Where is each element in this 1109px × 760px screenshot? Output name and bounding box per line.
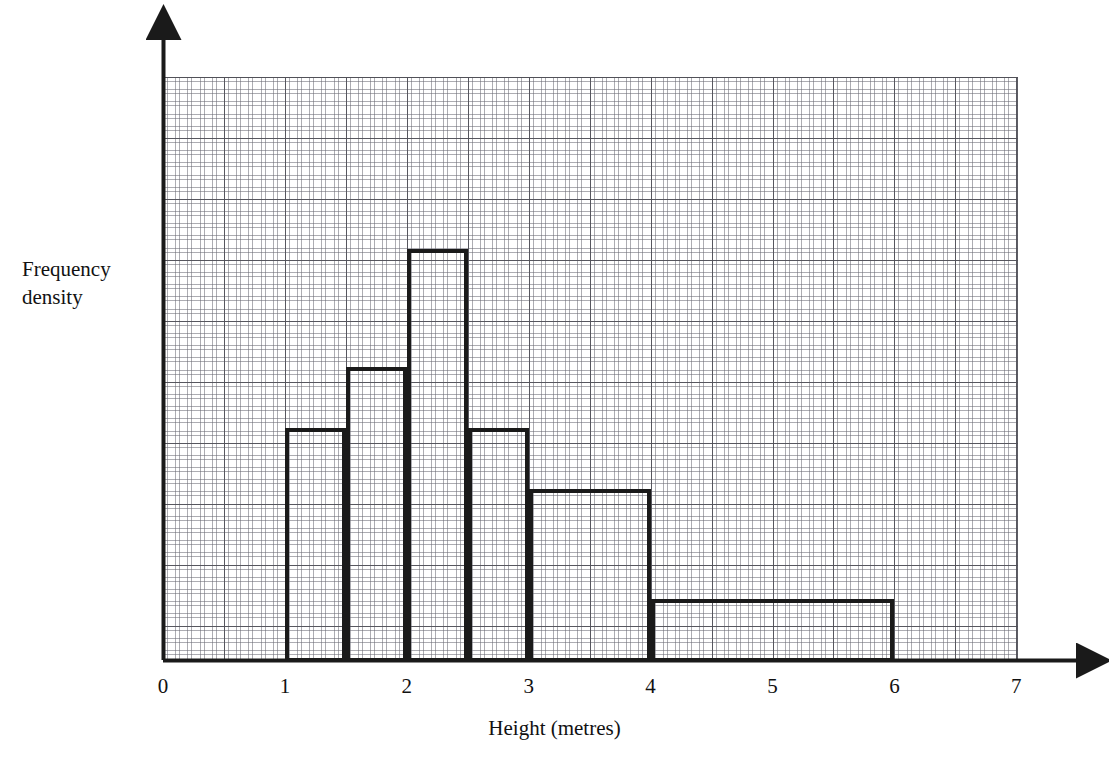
x-tick-label-6: 6 bbox=[874, 676, 914, 697]
histogram-page: 01234567 Frequency density Height (metre… bbox=[0, 0, 1109, 760]
histogram-bar bbox=[407, 249, 468, 662]
x-axis-label: Height (metres) bbox=[0, 716, 1109, 741]
y-axis-label-line-1: Frequency bbox=[22, 256, 162, 284]
histogram-bar bbox=[468, 428, 529, 662]
x-tick-label-2: 2 bbox=[387, 676, 427, 697]
histogram-bar bbox=[285, 428, 346, 662]
histogram-bar bbox=[346, 367, 407, 662]
y-axis-label-line-2: density bbox=[22, 284, 162, 312]
y-axis-label: Frequency density bbox=[22, 256, 162, 311]
x-tick-label-5: 5 bbox=[753, 676, 793, 697]
histogram-bars bbox=[0, 0, 1109, 760]
x-tick-label-4: 4 bbox=[631, 676, 671, 697]
x-tick-label-0: 0 bbox=[143, 676, 183, 697]
x-tick-label-7: 7 bbox=[996, 676, 1036, 697]
x-tick-label-3: 3 bbox=[509, 676, 549, 697]
x-tick-label-1: 1 bbox=[265, 676, 305, 697]
histogram-bar bbox=[651, 599, 895, 662]
histogram-bar bbox=[529, 489, 651, 662]
